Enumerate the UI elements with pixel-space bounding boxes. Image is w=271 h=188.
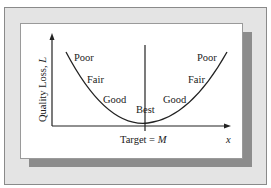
x-axis-arrow xyxy=(224,124,231,129)
x-axis-label: x xyxy=(225,134,231,145)
label-left-good: Good xyxy=(103,94,127,105)
label-left-poor: Poor xyxy=(74,52,94,63)
y-axis-label: Quality Loss, L xyxy=(37,57,48,122)
label-right-fair: Fair xyxy=(188,74,205,85)
loss-function-diagram: Quality Loss, L Poor Fair Good Best Good… xyxy=(0,0,271,188)
y-axis-arrow xyxy=(50,33,55,40)
label-right-poor: Poor xyxy=(197,52,217,63)
label-best: Best xyxy=(136,104,155,115)
label-right-good: Good xyxy=(163,94,187,105)
label-left-fair: Fair xyxy=(87,74,104,85)
target-label: Target = M xyxy=(120,134,168,145)
